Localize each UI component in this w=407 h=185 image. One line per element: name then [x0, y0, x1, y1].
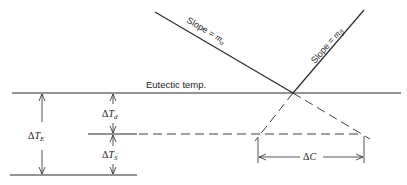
eutectic-undercooling-diagram: Eutectic temp. Slope = mα Slope = mβ ΔTE… — [0, 0, 407, 185]
slope-alpha-label: Slope = mα — [184, 15, 228, 48]
dT-S-label: ΔTS — [102, 149, 118, 162]
dT-E-label: ΔTE — [28, 130, 45, 143]
dT-d-label: ΔTd — [102, 108, 118, 121]
eutectic-label: Eutectic temp. — [146, 79, 206, 90]
slope-beta-label: Slope = mβ — [309, 26, 347, 67]
dC-label: ΔC — [303, 151, 316, 162]
slope-beta-line — [293, 10, 364, 93]
slope-alpha-extension — [293, 93, 370, 139]
